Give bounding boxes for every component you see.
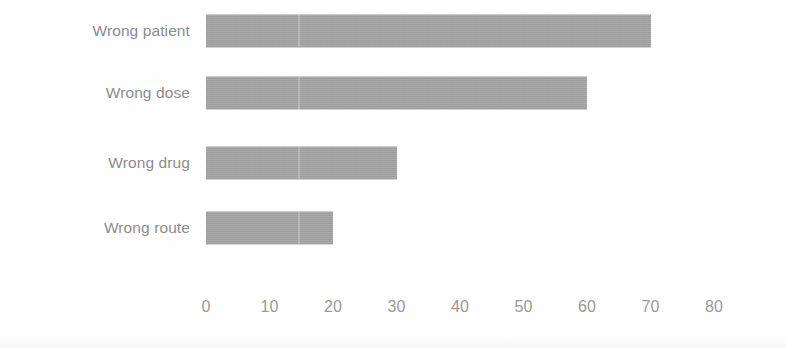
bar-row: Wrong dose — [0, 62, 786, 124]
bar-track — [206, 15, 726, 48]
bar-wrong-route — [206, 212, 333, 245]
bar-wrong-dose — [206, 77, 587, 110]
x-tick-20: 20 — [324, 298, 342, 316]
x-tick-10: 10 — [260, 298, 278, 316]
bar-track — [206, 212, 726, 245]
bar-row: Wrong route — [0, 197, 786, 259]
category-label: Wrong dose — [0, 84, 190, 102]
bar-row: Wrong patient — [0, 0, 786, 62]
x-tick-80: 80 — [705, 298, 723, 316]
bar-wrong-patient — [206, 15, 651, 48]
plot-area: Wrong patient Wrong dose Wrong drug Wron… — [0, 0, 786, 290]
category-label: Wrong route — [0, 219, 190, 237]
x-tick-60: 60 — [578, 298, 596, 316]
bar-row: Wrong drug — [0, 132, 786, 194]
x-tick-0: 0 — [201, 298, 210, 316]
x-tick-50: 50 — [514, 298, 532, 316]
bar-wrong-drug — [206, 147, 397, 180]
horizontal-bar-chart: Wrong patient Wrong dose Wrong drug Wron… — [0, 0, 786, 348]
category-label: Wrong drug — [0, 154, 190, 172]
x-axis: 0 10 20 30 40 50 60 70 80 — [0, 290, 786, 348]
x-tick-70: 70 — [641, 298, 659, 316]
bar-track — [206, 147, 726, 180]
category-label: Wrong patient — [0, 22, 190, 40]
x-tick-40: 40 — [451, 298, 469, 316]
bar-track — [206, 77, 726, 110]
x-tick-30: 30 — [387, 298, 405, 316]
